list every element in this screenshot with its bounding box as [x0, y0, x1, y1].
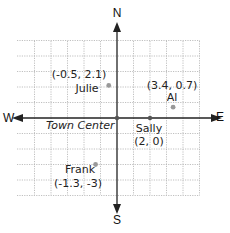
al-name: Al: [167, 92, 178, 104]
point-julie: [106, 83, 111, 88]
west-label: W: [3, 112, 14, 124]
point-sally: [148, 116, 152, 120]
coordinate-map: [0, 0, 230, 233]
axes: [12, 22, 222, 214]
north-label: N: [113, 7, 122, 19]
julie-coords: (-0.5, 2.1): [52, 69, 107, 81]
julie-name: Julie: [75, 83, 98, 95]
sally-coords: (2, 0): [134, 136, 164, 148]
point-al: [171, 105, 176, 110]
origin-label: Town Center: [46, 120, 115, 132]
north-arrow-icon: [113, 22, 121, 32]
frank-name: Frank: [65, 164, 95, 176]
sally-name: Sally: [136, 123, 162, 135]
south-label: S: [113, 214, 121, 226]
frank-coords: (-1.3, -3): [54, 178, 102, 190]
origin-dot: [115, 116, 119, 120]
east-label: E: [216, 111, 224, 123]
